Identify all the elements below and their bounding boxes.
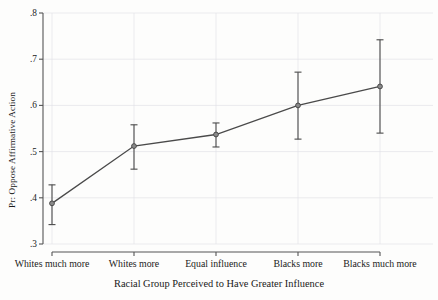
chart-figure: Pr: Oppose Affirmative Action Racial Gro… xyxy=(0,0,438,300)
y-tick-label: .5 xyxy=(15,147,37,157)
x-tick-label: Equal influence xyxy=(185,258,247,269)
x-tick-label: Blacks much more xyxy=(343,258,416,269)
x-tick-label: Whites much more xyxy=(15,258,90,269)
y-tick-label: .3 xyxy=(15,239,37,249)
y-tick-label: .8 xyxy=(15,8,37,18)
y-tick-label: .7 xyxy=(15,54,37,64)
x-tick-label: Whites more xyxy=(109,258,159,269)
y-tick-label: .6 xyxy=(15,100,37,110)
gridlines xyxy=(43,13,433,244)
y-tick-label: .4 xyxy=(15,193,37,203)
axis-lines xyxy=(39,13,380,256)
plot-area xyxy=(0,0,438,300)
x-tick-label: Blacks more xyxy=(273,258,322,269)
